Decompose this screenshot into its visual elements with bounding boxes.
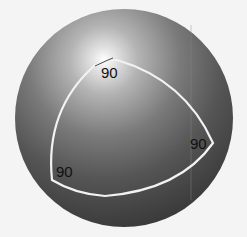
angle-label-left: 90 <box>56 163 73 180</box>
sphere-diagram: 90 90 90 <box>0 0 247 237</box>
angle-label-right: 90 <box>190 135 207 152</box>
angle-label-top: 90 <box>101 64 118 81</box>
